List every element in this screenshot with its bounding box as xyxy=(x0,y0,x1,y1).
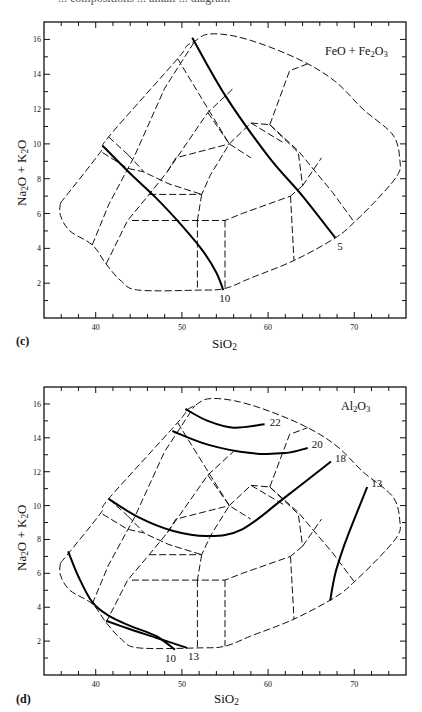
contour-label: 10 xyxy=(165,652,177,664)
contour-label: 13 xyxy=(188,650,200,662)
panel-d: 40506070246810121416222018131013 Na2O + … xyxy=(0,0,422,712)
field-boundary xyxy=(92,406,195,604)
field-boundary xyxy=(270,487,355,582)
y-axis-label: Na2O + K2O xyxy=(14,504,30,571)
contour-line xyxy=(68,551,175,649)
field-boundary xyxy=(132,556,291,580)
oxide-label: Al2O3 xyxy=(341,399,370,414)
x-tick-label: 60 xyxy=(264,680,272,689)
field-boundary xyxy=(167,506,229,533)
x-tick-label: 70 xyxy=(350,680,358,689)
contour-label: 22 xyxy=(270,416,281,428)
y-tick-label: 14 xyxy=(33,434,41,443)
field-boundary xyxy=(251,485,303,546)
contour-line xyxy=(109,462,331,537)
field-boundary xyxy=(149,506,229,555)
field-outline xyxy=(60,398,401,648)
field-boundary xyxy=(197,555,201,580)
field-boundary xyxy=(291,546,303,556)
contour-line xyxy=(172,431,307,454)
field-boundary xyxy=(106,451,234,622)
chart-d: 40506070246810121416222018131013 xyxy=(0,0,422,712)
contour-label: 13 xyxy=(371,477,383,489)
y-tick-label: 8 xyxy=(37,535,41,544)
contour-label: 20 xyxy=(312,438,324,450)
contour-line xyxy=(330,487,367,601)
y-tick-label: 6 xyxy=(37,569,41,578)
y-tick-label: 4 xyxy=(37,603,41,612)
field-boundary xyxy=(303,519,322,546)
y-tick-label: 2 xyxy=(37,637,41,646)
contour-label: 18 xyxy=(335,452,347,464)
contour-line xyxy=(106,621,187,648)
x-tick-label: 50 xyxy=(178,680,186,689)
x-tick-label: 40 xyxy=(92,680,100,689)
x-axis-label: SiO2 xyxy=(214,691,239,707)
y-tick-label: 10 xyxy=(33,502,41,511)
y-tick-label: 16 xyxy=(33,400,41,409)
y-tick-label: 12 xyxy=(33,468,41,477)
field-boundary xyxy=(208,475,230,506)
field-boundary xyxy=(270,428,308,487)
panel-letter: (d) xyxy=(16,692,31,707)
contour-line xyxy=(185,409,264,428)
field-boundary xyxy=(291,556,295,619)
